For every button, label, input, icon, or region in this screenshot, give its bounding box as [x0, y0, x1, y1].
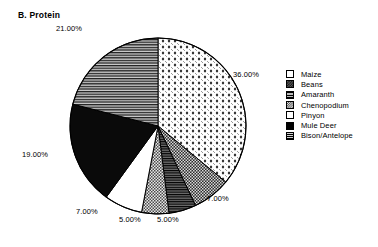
legend-swatch-bison-antelope-icon: [286, 132, 294, 140]
legend-swatch-mule-deer-icon: [286, 122, 294, 130]
legend-label-bison-antelope: Bison/Antelope: [301, 131, 353, 140]
legend-item-maize[interactable]: Maize: [286, 69, 376, 79]
legend-swatch-beans-icon: [286, 80, 294, 88]
legend-label-chenopodium: Chenopodium: [301, 101, 349, 110]
label-beans-pct: 7.00%: [207, 194, 229, 203]
pie-slices-group: [70, 38, 246, 214]
legend-swatch-pinyon-icon: [286, 111, 294, 119]
legend-label-maize: Maize: [301, 70, 322, 79]
legend-swatch-maize-icon: [286, 70, 294, 78]
legend-label-beans: Beans: [301, 80, 323, 89]
pie-plot-area: 21.00% 36.00% 19.00% 7.00% 5.00% 5.00% 7…: [58, 26, 258, 226]
label-bison-antelope-pct: 21.00%: [56, 24, 82, 33]
label-chenopodium-pct: 5.00%: [119, 215, 141, 224]
label-mule-deer-pct: 19.00%: [22, 150, 48, 159]
legend-item-mule-deer[interactable]: Mule Deer: [286, 120, 376, 130]
label-amaranth-pct: 5.00%: [157, 215, 179, 224]
legend-item-chenopodium[interactable]: Chenopodium: [286, 100, 376, 110]
legend-label-pinyon: Pinyon: [301, 111, 325, 120]
legend-swatch-amaranth-icon: [286, 91, 294, 99]
legend-swatch-chenopodium-icon: [286, 101, 294, 109]
pie-chart-figure: B. Protein: [0, 0, 378, 247]
legend: Maize Beans Amaranth Chenopodium Pinyon …: [286, 69, 376, 141]
legend-label-mule-deer: Mule Deer: [301, 121, 337, 130]
legend-item-pinyon[interactable]: Pinyon: [286, 110, 376, 120]
legend-item-beans[interactable]: Beans: [286, 79, 376, 89]
legend-item-amaranth[interactable]: Amaranth: [286, 90, 376, 100]
label-maize-pct: 36.00%: [233, 70, 259, 79]
legend-item-bison-antelope[interactable]: Bison/Antelope: [286, 131, 376, 141]
legend-label-amaranth: Amaranth: [301, 90, 334, 99]
label-pinyon-pct: 7.00%: [76, 207, 98, 216]
chart-title: B. Protein: [18, 10, 60, 20]
